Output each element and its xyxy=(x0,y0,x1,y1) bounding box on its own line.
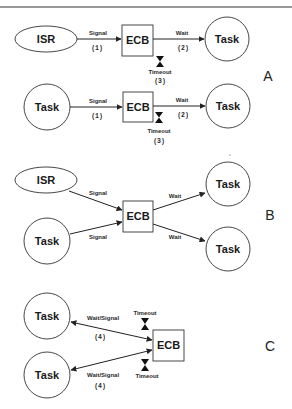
timeout-label: Timeout xyxy=(135,373,158,379)
panel-b: ISR Task Signal Signal ECB Wait Wait Tas… xyxy=(15,162,250,271)
task-node: Task xyxy=(24,352,70,398)
isr-label: ISR xyxy=(37,174,55,186)
ecb-label: ECB xyxy=(126,101,149,113)
hourglass-icon xyxy=(141,359,149,371)
ecb-diagram: ISR Signal (1) ECB Wait (2) Timeout (3) … xyxy=(0,0,292,409)
stray-dot xyxy=(229,154,230,155)
signal-arrow xyxy=(70,222,122,234)
isr-node: ISR xyxy=(15,26,77,52)
wait-signal-num: (4) xyxy=(94,334,106,341)
panel-label-b: B xyxy=(265,207,274,223)
signal-label: Signal xyxy=(89,190,107,196)
ecb-label: ECB xyxy=(157,339,180,351)
ecb-node: ECB xyxy=(123,201,153,232)
task-label: Task xyxy=(215,33,240,45)
wait-label: Wait xyxy=(169,193,181,199)
task-node: Task xyxy=(24,293,70,339)
signal-label: Signal xyxy=(89,234,107,240)
task-node: Task xyxy=(24,84,70,130)
task-label: Task xyxy=(35,369,60,381)
task-label: Task xyxy=(216,243,241,255)
panel-a-row-1: ISR Signal (1) ECB Wait (2) Timeout (3) … xyxy=(15,17,249,85)
timeout-label: Timeout xyxy=(147,128,170,134)
task-node: Task xyxy=(205,17,249,61)
timeout-label: Timeout xyxy=(133,310,156,316)
signal-label: Signal xyxy=(89,30,107,36)
wait-label: Wait xyxy=(176,97,188,103)
panel-c: Task Task Wait/Signal (4) Wait/Signal (4… xyxy=(24,293,184,398)
hourglass-icon xyxy=(156,56,164,67)
task-label: Task xyxy=(216,100,241,112)
task-node: Task xyxy=(206,162,250,206)
hourglass-icon xyxy=(141,318,149,330)
wait-signal-arrow xyxy=(71,322,152,340)
wait-num: (2) xyxy=(177,45,189,52)
timeout-num: (3) xyxy=(154,78,166,85)
panel-label-a: A xyxy=(263,68,273,84)
timeout-num: (3) xyxy=(153,138,165,145)
signal-num: (1) xyxy=(91,45,103,52)
task-node: Task xyxy=(206,227,250,271)
ecb-label: ECB xyxy=(126,210,149,222)
isr-node: ISR xyxy=(15,167,77,193)
task-label: Task xyxy=(216,178,241,190)
wait-signal-label: Wait/Signal xyxy=(87,315,119,321)
isr-label: ISR xyxy=(37,33,55,45)
ecb-label: ECB xyxy=(126,34,149,46)
signal-label: Signal xyxy=(89,98,107,104)
ecb-node: ECB xyxy=(153,330,184,361)
task-node: Task xyxy=(24,218,70,264)
panel-a-row-2: Task Signal (1) ECB Wait (2) Timeout (3)… xyxy=(24,84,250,145)
ecb-node: ECB xyxy=(123,92,153,122)
timeout-label: Timeout xyxy=(148,69,171,75)
signal-num: (1) xyxy=(91,113,103,120)
ecb-node: ECB xyxy=(122,25,153,56)
wait-label: Wait xyxy=(169,234,181,240)
wait-signal-num: (4) xyxy=(94,383,106,390)
wait-label: Wait xyxy=(176,30,188,36)
wait-num: (2) xyxy=(177,112,189,119)
wait-signal-arrow xyxy=(71,350,152,370)
task-label: Task xyxy=(35,310,60,322)
task-node: Task xyxy=(206,84,250,128)
task-label: Task xyxy=(35,235,60,247)
panel-label-c: C xyxy=(265,338,275,354)
wait-signal-label: Wait/Signal xyxy=(87,372,119,378)
task-label: Task xyxy=(35,101,60,113)
hourglass-icon xyxy=(155,112,163,123)
